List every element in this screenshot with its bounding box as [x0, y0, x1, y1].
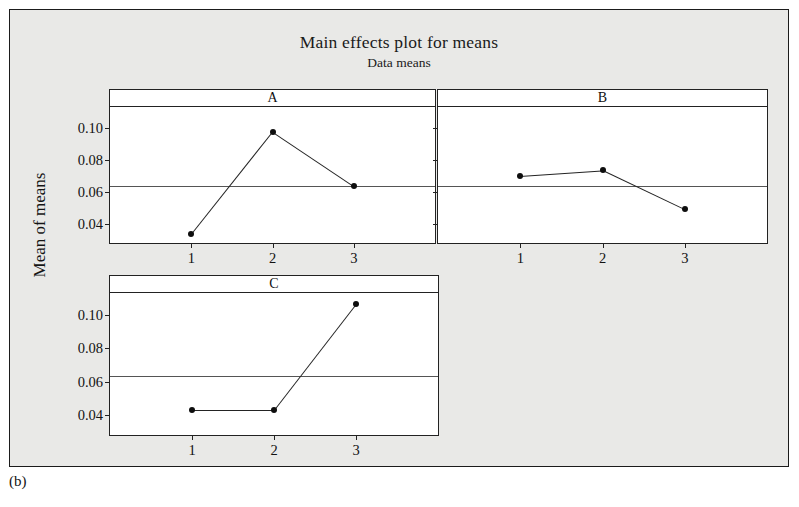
panel-a: A 0.040.060.080.10123 — [109, 89, 436, 244]
y-axis-tick-label: 0.04 — [78, 215, 103, 232]
x-axis-tick — [356, 435, 357, 440]
x-axis-tick-label: 2 — [270, 442, 277, 459]
y-axis-tick — [105, 224, 110, 225]
x-axis-tick-label: 1 — [188, 250, 195, 267]
data-point-marker — [600, 167, 606, 173]
panel-b: B 123 — [437, 89, 768, 244]
x-axis-tick-label: 3 — [352, 442, 359, 459]
y-axis-tick — [433, 224, 438, 225]
y-axis-tick — [105, 192, 110, 193]
x-axis-tick — [191, 243, 192, 248]
y-axis-tick — [433, 160, 438, 161]
chart-title: Main effects plot for means — [10, 32, 788, 53]
reference-line — [110, 376, 438, 377]
y-axis-tick-label: 0.10 — [78, 306, 103, 323]
x-axis-tick-label: 2 — [269, 250, 276, 267]
y-axis-tick — [105, 315, 110, 316]
x-axis-tick — [354, 243, 355, 248]
y-axis-tick-label: 0.04 — [78, 406, 103, 423]
data-point-marker — [189, 407, 195, 413]
main-effects-figure: Main effects plot for means Data means M… — [9, 9, 789, 467]
y-axis-tick-label: 0.06 — [78, 183, 103, 200]
data-point-marker — [188, 231, 194, 237]
y-axis-tick — [105, 415, 110, 416]
y-axis-tick — [105, 382, 110, 383]
data-point-marker — [682, 206, 688, 212]
x-axis-tick — [274, 435, 275, 440]
y-axis-label: Mean of means — [30, 125, 50, 325]
x-axis-tick-label: 2 — [599, 250, 606, 267]
data-point-marker — [271, 407, 277, 413]
panel-b-plot: 123 — [437, 107, 768, 244]
x-axis-tick — [273, 243, 274, 248]
x-axis-tick-label: 1 — [188, 442, 195, 459]
y-axis-tick-label: 0.10 — [78, 119, 103, 136]
panel-c-strip-label: C — [109, 275, 439, 293]
figure-caption: (b) — [9, 473, 27, 490]
x-axis-tick — [603, 243, 604, 248]
y-axis-tick-label: 0.06 — [78, 373, 103, 390]
reference-line — [110, 186, 435, 187]
reference-line — [438, 186, 767, 187]
data-point-marker — [353, 301, 359, 307]
series-segment — [274, 304, 357, 411]
y-axis-tick — [105, 128, 110, 129]
data-point-marker — [517, 173, 523, 179]
y-axis-tick-label: 0.08 — [78, 151, 103, 168]
chart-subtitle: Data means — [10, 55, 788, 71]
x-axis-tick-label: 1 — [517, 250, 524, 267]
data-point-marker — [270, 129, 276, 135]
series-segment — [191, 132, 273, 235]
series-segment — [602, 170, 685, 210]
panel-c: C 0.040.060.080.10123 — [109, 275, 439, 436]
y-axis-tick — [433, 192, 438, 193]
x-axis-tick-label: 3 — [350, 250, 357, 267]
x-axis-tick — [520, 243, 521, 248]
panel-a-plot: 0.040.060.080.10123 — [109, 107, 436, 244]
data-point-marker — [351, 183, 357, 189]
y-axis-tick — [105, 348, 110, 349]
series-segment — [192, 410, 274, 411]
x-axis-tick — [192, 435, 193, 440]
series-segment — [272, 132, 354, 187]
y-axis-tick — [433, 128, 438, 129]
panel-a-strip-label: A — [109, 89, 436, 107]
y-axis-tick — [105, 160, 110, 161]
y-axis-tick-label: 0.08 — [78, 340, 103, 357]
series-segment — [520, 170, 602, 177]
x-axis-tick-label: 3 — [681, 250, 688, 267]
panel-c-plot: 0.040.060.080.10123 — [109, 293, 439, 436]
x-axis-tick — [685, 243, 686, 248]
panel-b-strip-label: B — [437, 89, 768, 107]
